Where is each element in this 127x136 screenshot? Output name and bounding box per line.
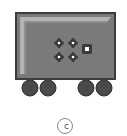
cart-icon	[0, 0, 127, 105]
wheels	[22, 80, 112, 96]
square-marker-icon	[82, 44, 92, 54]
wheel-icon	[78, 80, 94, 96]
wheel-icon	[22, 80, 38, 96]
cart-figure	[0, 0, 127, 105]
cart-body	[15, 12, 116, 80]
wheel-icon	[96, 80, 112, 96]
option-letter: c	[64, 122, 69, 131]
wheel-icon	[40, 80, 56, 96]
option-label-circle[interactable]: c	[57, 118, 73, 134]
